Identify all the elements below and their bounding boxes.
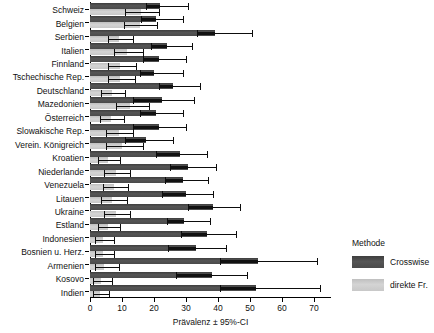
y-axis-tick bbox=[85, 264, 89, 265]
error-bar-thick bbox=[143, 58, 159, 61]
error-cap-low bbox=[95, 264, 96, 271]
error-cap-low bbox=[125, 137, 126, 144]
error-bar-thick bbox=[125, 139, 146, 142]
y-axis-tick bbox=[85, 63, 89, 64]
error-cap-high bbox=[207, 151, 208, 158]
y-axis-label: Mazedonien bbox=[38, 98, 84, 111]
error-cap-low bbox=[143, 56, 144, 63]
x-axis-tick bbox=[250, 297, 251, 302]
y-axis-tick bbox=[85, 22, 89, 23]
y-axis-tick bbox=[85, 237, 89, 238]
error-cap-low bbox=[220, 258, 221, 265]
y-axis-tick bbox=[85, 184, 89, 185]
error-cap-high bbox=[114, 237, 115, 244]
error-bar-thick bbox=[170, 166, 188, 169]
x-axis-tick-label: 10 bbox=[110, 303, 134, 313]
error-cap-high bbox=[127, 197, 128, 204]
error-cap-low bbox=[197, 30, 198, 37]
error-cap-high bbox=[135, 76, 136, 83]
error-cap-high bbox=[200, 83, 201, 90]
y-axis-label: Indien bbox=[61, 287, 84, 300]
error-cap-low bbox=[124, 22, 125, 29]
error-cap-low bbox=[220, 285, 221, 292]
y-axis-label: Finnland bbox=[51, 58, 84, 71]
y-axis-label: Bosnien u. Herz. bbox=[21, 246, 84, 259]
error-cap-low bbox=[114, 49, 115, 56]
bar-crosswise bbox=[90, 30, 215, 36]
error-bar-thick bbox=[188, 206, 214, 209]
x-axis-tick-label: 50 bbox=[238, 303, 262, 313]
y-axis-label: Österreich bbox=[45, 112, 84, 125]
error-bar-thick bbox=[141, 18, 155, 21]
error-cap-high bbox=[159, 9, 160, 16]
y-axis-tick bbox=[85, 170, 89, 171]
error-cap-low bbox=[151, 43, 152, 50]
error-bar-thick bbox=[168, 247, 195, 250]
plot-area bbox=[90, 2, 330, 295]
error-cap-low bbox=[167, 218, 168, 225]
error-cap-high bbox=[143, 49, 144, 56]
y-axis-category-labels: SchweizBelgienSerbienItalienFinnlandTsch… bbox=[0, 2, 84, 295]
error-cap-high bbox=[125, 90, 126, 97]
error-cap-high bbox=[247, 272, 248, 279]
error-cap-high bbox=[119, 264, 120, 271]
error-cap-low bbox=[108, 63, 109, 70]
error-cap-high bbox=[120, 224, 121, 231]
error-cap-high bbox=[252, 30, 253, 37]
error-cap-high bbox=[208, 177, 209, 184]
legend: Methode Crosswise direkte Fr. bbox=[352, 238, 432, 300]
error-cap-high bbox=[186, 124, 187, 131]
error-bar-thick bbox=[133, 126, 159, 129]
y-axis-tick bbox=[85, 103, 89, 104]
y-axis-tick bbox=[85, 224, 89, 225]
x-axis-tick-label: 20 bbox=[142, 303, 166, 313]
y-axis-label: Slowakische Rep. bbox=[16, 125, 84, 138]
error-cap-high bbox=[183, 110, 184, 117]
error-cap-high bbox=[173, 137, 174, 144]
y-axis-label: Estland bbox=[56, 219, 84, 232]
x-axis-tick bbox=[282, 297, 283, 302]
legend-item-crosswise[interactable]: Crosswise bbox=[352, 254, 432, 270]
error-bar-thick bbox=[167, 220, 185, 223]
y-axis-tick bbox=[85, 49, 89, 50]
y-axis-label: Belgien bbox=[56, 18, 84, 31]
error-cap-high bbox=[194, 97, 195, 104]
error-cap-low bbox=[162, 191, 163, 198]
error-cap-low bbox=[101, 197, 102, 204]
error-cap-high bbox=[157, 22, 158, 29]
error-cap-high bbox=[124, 116, 125, 123]
y-axis-tick bbox=[85, 9, 89, 10]
y-axis-tick bbox=[85, 76, 89, 77]
error-cap-high bbox=[120, 157, 121, 164]
error-cap-high bbox=[192, 43, 193, 50]
error-cap-low bbox=[156, 151, 157, 158]
y-axis-label: Venezuela bbox=[44, 179, 84, 192]
error-bar-thick bbox=[159, 85, 173, 88]
error-cap-low bbox=[98, 157, 99, 164]
x-axis-tick bbox=[122, 297, 123, 302]
y-axis-label: Italien bbox=[61, 45, 84, 58]
x-axis-tick-label: 0 bbox=[78, 303, 102, 313]
error-cap-low bbox=[104, 170, 105, 177]
error-cap-low bbox=[108, 76, 109, 83]
error-cap-low bbox=[188, 204, 189, 211]
error-cap-high bbox=[136, 63, 137, 70]
y-axis-tick bbox=[85, 36, 89, 37]
error-cap-high bbox=[183, 16, 184, 23]
error-cap-high bbox=[240, 204, 241, 211]
x-axis-tick bbox=[314, 297, 315, 302]
x-axis-title: Prävalenz ± 95%-CI bbox=[90, 317, 331, 327]
error-bar-thick bbox=[220, 260, 258, 263]
y-axis-tick bbox=[85, 89, 89, 90]
error-cap-high bbox=[112, 278, 113, 285]
y-axis-label: Deutschland bbox=[37, 85, 84, 98]
error-cap-low bbox=[170, 164, 171, 171]
y-axis-label: Tschechische Rep. bbox=[13, 71, 84, 84]
error-cap-low bbox=[125, 9, 126, 16]
y-axis-tick bbox=[85, 210, 89, 211]
y-axis-label: Kosovo bbox=[56, 273, 84, 286]
legend-item-direkte-fr[interactable]: direkte Fr. bbox=[352, 277, 432, 293]
error-cap-low bbox=[165, 177, 166, 184]
error-cap-low bbox=[101, 90, 102, 97]
error-cap-low bbox=[104, 211, 105, 218]
